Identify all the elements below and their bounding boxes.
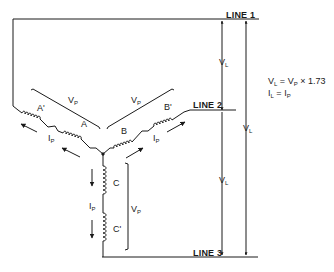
ip-label-a: IP <box>48 134 55 144</box>
neutral-junction <box>102 153 104 155</box>
line2-label: LINE 2 <box>193 101 222 110</box>
winding-b-label: B <box>121 127 127 136</box>
vp-label-c: VP <box>131 205 141 215</box>
formula-current: IL = IP <box>268 89 291 99</box>
ip-arrow-b <box>126 148 143 158</box>
winding-c-label: C <box>113 179 120 188</box>
winding-a-label: A <box>81 120 87 129</box>
left-wire <box>13 19 18 110</box>
vp-label-a: VP <box>68 96 78 106</box>
ip-label-c: IP <box>89 202 96 212</box>
ip-arrow-a-prime <box>21 124 37 132</box>
vl-label-right: VL <box>243 124 252 134</box>
vl-label-top: VL <box>219 58 228 68</box>
ip-label-b: IP <box>153 134 160 144</box>
vl-label-bottom: VL <box>219 176 228 186</box>
winding-a-prime-label: A' <box>37 104 45 113</box>
vp-bracket-c <box>125 163 128 250</box>
formula-voltage: VL = VP × 1.73 <box>268 77 325 87</box>
vp-label-b: VP <box>131 96 141 106</box>
winding-b-prime-label: B' <box>164 103 172 112</box>
coil-b-prime <box>148 110 197 131</box>
ip-arrow-a <box>62 148 80 157</box>
winding-c-prime-label: C' <box>113 225 121 234</box>
ip-arrow-b-prime <box>167 122 185 132</box>
coil-a-prime <box>18 110 58 131</box>
coil-c <box>103 154 106 206</box>
line3-label: LINE 3 <box>193 249 222 258</box>
line1-label: LINE 1 <box>226 11 255 20</box>
coil-c-prime <box>103 206 106 257</box>
coil-a <box>58 131 103 154</box>
